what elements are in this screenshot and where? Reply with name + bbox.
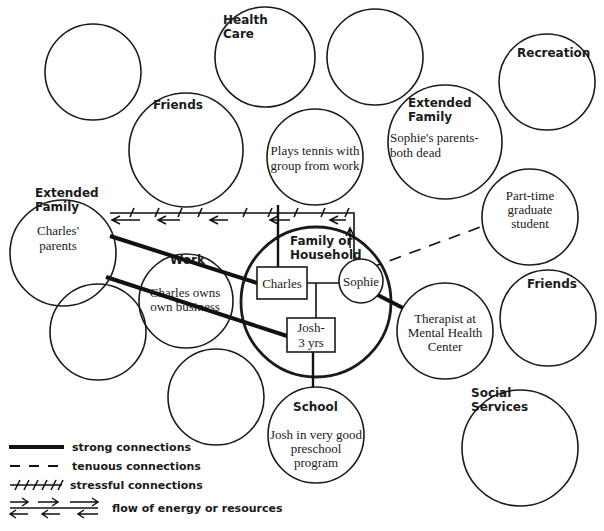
extended-family-right-note-1: Sophie's parents-: [390, 130, 479, 145]
therapist-note-2: Mental Health: [408, 325, 483, 340]
school-note-3: program: [294, 455, 338, 470]
friends-right-label: Friends: [527, 277, 577, 291]
extended-family-left-label-2: Family: [35, 200, 79, 214]
node-lower-empty: [168, 349, 264, 445]
student-note-1: Part-time: [506, 188, 555, 203]
legend-stressful-label: stressful connections: [70, 479, 203, 492]
tennis-note-1: Plays tennis with: [271, 143, 360, 158]
node-recreation: Recreation: [499, 34, 595, 130]
legend-flow: flow of energy or resources: [10, 498, 283, 518]
social-services-label-1: Social: [471, 386, 511, 400]
person-charles: Charles: [257, 267, 307, 299]
charles-label: Charles: [262, 276, 302, 291]
extended-family-left-note-2: parents: [39, 238, 77, 253]
legend-tenuous: tenuous connections: [10, 460, 201, 473]
legend-stressful: stressful connections: [10, 479, 203, 492]
extended-family-left-label-1: Extended: [35, 186, 99, 200]
health-care-label-2: Care: [223, 27, 254, 41]
extended-family-right-label-2: Family: [408, 110, 452, 124]
extended-family-right-label-1: Extended: [408, 96, 472, 110]
node-top-left-empty: [45, 24, 141, 120]
node-friends-left: Friends: [129, 93, 243, 207]
strong-connection-extfamily-charles: [110, 236, 257, 283]
person-josh: Josh- 3 yrs: [287, 318, 335, 352]
node-health-care: Health Care: [215, 7, 315, 107]
therapist-note-3: Center: [428, 339, 463, 354]
student-note-2: graduate: [508, 202, 553, 217]
legend-strong-label: strong connections: [72, 441, 191, 454]
school-note-1: Josh in very good: [270, 427, 363, 442]
social-services-label-2: Services: [471, 400, 528, 414]
legend-tenuous-label: tenuous connections: [72, 460, 201, 473]
legend-flow-label: flow of energy or resources: [112, 502, 283, 515]
school-note-2: preschool: [291, 441, 342, 456]
person-sophie: Sophie: [339, 259, 383, 303]
student-note-3: student: [511, 216, 549, 231]
friends-left-label: Friends: [153, 98, 203, 112]
josh-label-1: Josh-: [297, 320, 324, 335]
school-label: School: [293, 400, 338, 414]
work-note-1: Charles owns: [150, 285, 220, 300]
node-extended-family-left: Extended Family Charles' parents: [10, 186, 116, 306]
node-school: School Josh in very good preschool progr…: [268, 387, 364, 483]
family-household-label-2: Household: [290, 248, 362, 262]
josh-label-2: 3 yrs: [298, 335, 324, 350]
node-social-services: Social Services: [462, 386, 578, 506]
family-household-label-1: Family or: [290, 234, 353, 248]
ecomap-diagram: Health Care Recreation Friends Plays ten…: [0, 0, 604, 531]
therapist-note-1: Therapist at: [414, 311, 476, 326]
node-top-center-empty: [327, 9, 423, 105]
tennis-note-2: group from work: [271, 158, 360, 173]
legend-strong: strong connections: [9, 441, 191, 454]
extended-family-right-note-2: both dead: [390, 145, 441, 160]
sophie-label: Sophie: [343, 274, 379, 289]
health-care-label-1: Health: [223, 13, 268, 27]
recreation-label: Recreation: [517, 46, 590, 60]
tenuous-connection-sophie-student: [370, 226, 483, 268]
extended-family-left-note-1: Charles': [37, 223, 79, 238]
node-therapist: Therapist at Mental Health Center: [397, 283, 493, 379]
node-work: Work Charles owns own business: [139, 253, 233, 348]
node-part-time-student: Part-time graduate student: [482, 169, 578, 265]
node-tennis: Plays tennis with group from work: [267, 109, 363, 205]
node-extended-family-right: Extended Family Sophie's parents- both d…: [388, 85, 502, 199]
node-mid-left-empty: [50, 284, 146, 380]
node-friends-right: Friends: [500, 270, 596, 366]
legend: strong connections tenuous connections s…: [9, 441, 283, 518]
